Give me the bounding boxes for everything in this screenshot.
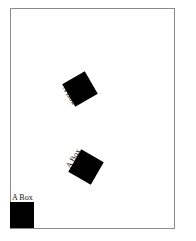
box-3[interactable]: A Box xyxy=(10,202,34,228)
box-label: A Box xyxy=(12,194,33,202)
canvas-frame xyxy=(10,8,175,229)
